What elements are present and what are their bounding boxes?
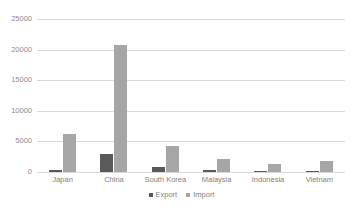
bar-export-indonesia[interactable] xyxy=(254,171,267,172)
bar-export-south-korea[interactable] xyxy=(152,167,165,172)
bars-layer xyxy=(37,19,345,172)
legend-label: Import xyxy=(193,190,214,199)
x-axis-tick-label: Japan xyxy=(37,174,88,186)
bar-group xyxy=(140,19,191,172)
gridline xyxy=(37,172,345,173)
bar-export-malaysia[interactable] xyxy=(203,170,216,172)
bar-group xyxy=(191,19,242,172)
x-axis: JapanChinaSouth KoreaMalaysiaIndonesiaVi… xyxy=(37,174,345,188)
legend-label: Export xyxy=(156,190,178,199)
x-axis-tick-label: Malaysia xyxy=(191,174,242,186)
x-axis-tick-label: South Korea xyxy=(140,174,191,186)
bar-group xyxy=(294,19,345,172)
y-axis-tick-label: 10000 xyxy=(0,107,32,115)
legend-swatch-icon xyxy=(149,193,153,197)
y-axis-tick-label: 25000 xyxy=(0,15,32,23)
bar-chart: 0500010000150002000025000 JapanChinaSout… xyxy=(0,0,363,212)
bar-import-indonesia[interactable] xyxy=(268,164,281,172)
bar-import-vietnam[interactable] xyxy=(320,161,333,172)
x-axis-tick-label: Vietnam xyxy=(294,174,345,186)
y-axis-tick-label: 20000 xyxy=(0,46,32,54)
bar-import-china[interactable] xyxy=(114,45,127,172)
legend-item-import[interactable]: Import xyxy=(186,190,214,199)
bar-import-japan[interactable] xyxy=(63,134,76,172)
bar-import-south-korea[interactable] xyxy=(166,146,179,172)
bar-import-malaysia[interactable] xyxy=(217,159,230,172)
legend-item-export[interactable]: Export xyxy=(149,190,178,199)
bar-group xyxy=(88,19,139,172)
bar-group xyxy=(37,19,88,172)
bar-export-vietnam[interactable] xyxy=(306,171,319,172)
y-axis-tick-label: 5000 xyxy=(0,137,32,145)
plot-area xyxy=(37,19,345,172)
legend-swatch-icon xyxy=(186,193,190,197)
y-axis-tick-label: 0 xyxy=(0,168,32,176)
y-axis-tick-label: 15000 xyxy=(0,76,32,84)
bar-export-china[interactable] xyxy=(100,154,113,172)
bar-export-japan[interactable] xyxy=(49,170,62,172)
x-axis-tick-label: China xyxy=(88,174,139,186)
bar-group xyxy=(242,19,293,172)
chart-legend: ExportImport xyxy=(0,190,363,199)
x-axis-tick-label: Indonesia xyxy=(242,174,293,186)
